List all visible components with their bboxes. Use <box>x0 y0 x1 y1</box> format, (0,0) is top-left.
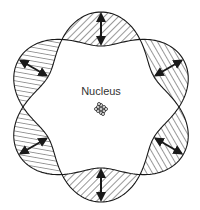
wave-lobe <box>14 107 62 175</box>
standing-wave-diagram: Nucleus <box>0 0 200 210</box>
wave-lobe <box>14 39 62 107</box>
wave-lobe <box>140 39 188 107</box>
nucleus-icon <box>95 103 108 116</box>
wave-lobe <box>140 107 188 175</box>
nucleus-label: Nucleus <box>81 85 121 97</box>
